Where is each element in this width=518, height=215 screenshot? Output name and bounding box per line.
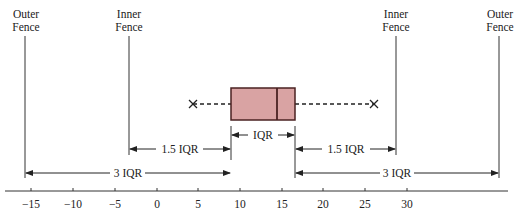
svg-text:−5: −5	[109, 198, 121, 210]
svg-text:Fence: Fence	[486, 21, 513, 33]
outer-fence-right-label: Outer Fence	[486, 8, 513, 33]
svg-text:0: 0	[154, 198, 160, 210]
iqr-label: IQR	[253, 129, 273, 141]
svg-text:Fence: Fence	[382, 21, 409, 33]
inner-fence-left-label: Inner Fence	[115, 8, 142, 33]
iqr-box	[231, 88, 295, 120]
outer-fence-left-label: Outer Fence	[12, 8, 39, 33]
boxplot-diagram: Outer Fence Inner Fence Inner Fence Oute…	[0, 0, 518, 215]
svg-text:Outer: Outer	[487, 8, 513, 20]
svg-text:Fence: Fence	[12, 21, 39, 33]
outer-right-iqr-label: 3 IQR	[383, 167, 412, 179]
svg-text:−10: −10	[64, 198, 82, 210]
svg-text:15: 15	[276, 198, 288, 210]
outer-left-iqr-label: 3 IQR	[114, 167, 143, 179]
inner-left-iqr-label: 1.5 IQR	[161, 143, 198, 155]
svg-text:30: 30	[401, 198, 413, 210]
svg-text:25: 25	[359, 198, 371, 210]
svg-text:10: 10	[234, 198, 246, 210]
inner-fence-right-label: Inner Fence	[382, 8, 409, 33]
svg-text:20: 20	[317, 198, 329, 210]
svg-text:−15: −15	[22, 198, 40, 210]
inner-right-iqr-label: 1.5 IQR	[327, 143, 364, 155]
svg-text:Outer: Outer	[13, 8, 39, 20]
svg-text:Fence: Fence	[115, 21, 142, 33]
x-axis-tick-labels: −15 −10 −5 0 5 10 15 20 25 30	[22, 198, 413, 210]
svg-text:Inner: Inner	[117, 8, 141, 20]
svg-text:Inner: Inner	[384, 8, 408, 20]
whisker-high-x-marker	[370, 100, 378, 108]
svg-text:5: 5	[195, 198, 201, 210]
